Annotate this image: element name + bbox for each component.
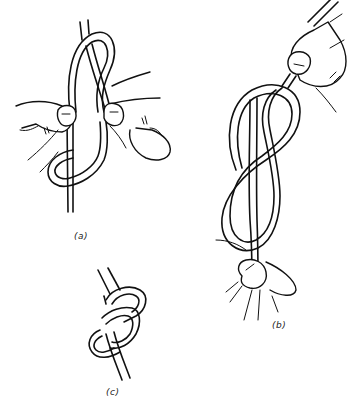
panel-b: (b): [180, 0, 356, 340]
panel-b-label: (b): [272, 320, 286, 330]
panel-c-label: (c): [106, 387, 119, 397]
panel-c: (c): [80, 260, 180, 410]
panel-c-drawing: [80, 260, 180, 390]
panel-a-drawing: [0, 0, 200, 250]
panel-a-label: (a): [74, 231, 88, 241]
figure-eight-knot-illustration: (a): [0, 0, 356, 413]
panel-a: (a): [0, 0, 200, 250]
panel-b-drawing: [180, 0, 356, 340]
